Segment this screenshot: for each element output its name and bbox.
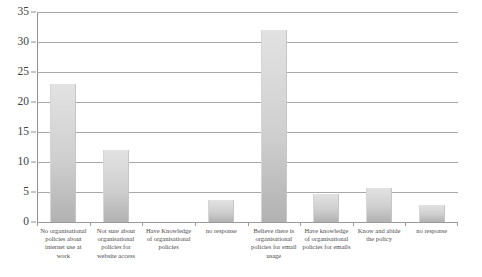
bar-slot <box>37 12 90 222</box>
y-tick-mark-10 <box>31 162 36 163</box>
x-axis-labels: No organisational policies about interne… <box>37 227 458 260</box>
bar <box>50 84 76 222</box>
y-tick-label-35: 35 <box>18 6 30 18</box>
x-tick-mark <box>405 222 406 226</box>
y-tick-label-30: 30 <box>18 36 30 48</box>
bar <box>103 150 129 222</box>
x-tick-mark <box>457 222 458 226</box>
x-tick-mark <box>248 222 249 226</box>
x-tick-cell <box>248 222 301 226</box>
x-tick-mark <box>37 222 38 226</box>
x-tick-mark <box>90 222 91 226</box>
bar <box>313 194 339 222</box>
x-axis-label: Have Knowledge of organisational policie… <box>142 227 195 260</box>
bar <box>208 200 234 222</box>
bar-slot <box>300 12 353 222</box>
x-axis-label: Have knowledge of organisational policie… <box>300 227 353 260</box>
y-tick-label-15: 15 <box>18 126 30 138</box>
x-tick-cell <box>405 222 458 226</box>
bar-slot <box>353 12 406 222</box>
x-tick-mark <box>300 222 301 226</box>
bar-slot <box>248 12 301 222</box>
x-axis-ticks <box>37 222 458 226</box>
y-tick-mark-25 <box>31 72 36 73</box>
bar-slot <box>405 12 458 222</box>
bar-slot <box>142 12 195 222</box>
x-tick-mark <box>142 222 143 226</box>
x-tick-cell <box>195 222 248 226</box>
x-tick-cell <box>300 222 353 226</box>
bar-chart: 05101520253035 No organisational policie… <box>0 0 482 277</box>
x-tick-mark <box>195 222 196 226</box>
x-tick-cell <box>90 222 143 226</box>
y-tick-label-0: 0 <box>23 216 29 228</box>
x-axis-label: no response <box>195 227 248 260</box>
bar-slot <box>195 12 248 222</box>
bar-slot <box>90 12 143 222</box>
bar <box>261 30 287 222</box>
x-axis-label: No organisational policies about interne… <box>37 227 90 260</box>
y-axis: 05101520253035 <box>0 0 37 234</box>
y-tick-label-10: 10 <box>18 156 30 168</box>
x-tick-cell <box>37 222 90 226</box>
bar <box>366 188 392 222</box>
y-tick-mark-30 <box>31 42 36 43</box>
y-tick-mark-5 <box>31 192 36 193</box>
y-tick-mark-0 <box>31 222 36 223</box>
x-tick-mark <box>353 222 354 226</box>
y-tick-label-20: 20 <box>18 96 30 108</box>
bar <box>419 205 445 222</box>
x-axis-label: Know and abide the policy <box>353 227 406 260</box>
y-tick-mark-20 <box>31 102 36 103</box>
x-axis-label: no response <box>405 227 458 260</box>
y-tick-label-5: 5 <box>23 186 29 198</box>
y-tick-mark-35 <box>31 12 36 13</box>
bars <box>37 12 458 222</box>
x-axis-label: Believe there is organisational policies… <box>248 227 301 260</box>
x-axis-label: Not sure about organisational policies f… <box>90 227 143 260</box>
plot-area <box>37 12 458 222</box>
x-tick-cell <box>142 222 195 226</box>
y-tick-label-25: 25 <box>18 66 30 78</box>
x-tick-cell <box>353 222 406 226</box>
y-tick-mark-15 <box>31 132 36 133</box>
